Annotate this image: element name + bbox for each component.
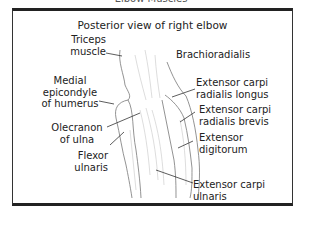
label-line: ulnaris [193,191,265,203]
label-triceps: Triceps muscle [40,34,106,57]
label-ecrb: Extensor carpi radialis brevis [199,104,271,127]
label-extensor-digitorum: Extensor digitorum [199,132,247,155]
label-line: ulnaris [56,162,108,174]
label-flexor-ulnaris: Flexor ulnaris [56,150,108,173]
label-line: radialis longus [196,89,269,101]
label-line: radialis brevis [199,116,271,128]
label-line: Medial [40,75,100,87]
label-olecranon: Olecranon of ulna [48,122,106,145]
label-ecu: Extensor carpi ulnaris [193,179,265,202]
label-line: Flexor [56,150,108,162]
label-line: digitorum [199,144,247,156]
label-line: Extensor [199,132,247,144]
label-line: Extensor carpi [199,104,271,116]
label-ecrl: Extensor carpi radialis longus [196,77,269,100]
label-medial-epicondyle: Medial epicondyle of humerus [40,75,100,110]
label-line: of humerus [40,98,100,110]
label-line: Extensor carpi [193,179,265,191]
label-line: Brachioradialis [176,49,250,61]
label-line: Extensor carpi [196,77,269,89]
label-line: of ulna [48,134,106,146]
label-line: muscle [40,46,106,58]
label-line: Olecranon [48,122,106,134]
label-line: epicondyle [40,87,100,99]
label-line: Triceps [40,34,106,46]
label-brachioradialis: Brachioradialis [176,49,250,61]
